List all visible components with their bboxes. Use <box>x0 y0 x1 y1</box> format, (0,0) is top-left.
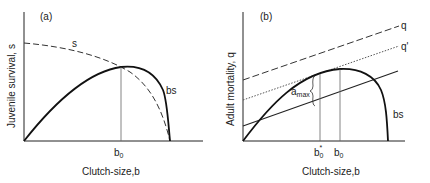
panel-b: (b) q q' bs amax b0* b0 Clutch-size,b Ad… <box>225 11 409 177</box>
figure: (a) s bs b0 Clutch-size,b Juvenile survi… <box>0 0 430 183</box>
panel-a-ylabel: Juvenile survival, s <box>6 44 17 128</box>
panel-a-tag: (a) <box>40 11 52 22</box>
panel-b-b0-star-tick: b0* <box>314 144 324 159</box>
panel-a-s-label: s <box>72 38 77 49</box>
panel-a-s-curve <box>24 43 170 141</box>
panel-b-bs-curve <box>243 69 388 141</box>
panel-b-q-prime-label: q' <box>401 41 409 52</box>
panel-a-bs-curve <box>24 67 170 141</box>
panel-b-amax-label: amax <box>291 86 310 98</box>
panel-a: (a) s bs b0 Clutch-size,b Juvenile survi… <box>6 11 203 177</box>
panel-b-tag: (b) <box>260 11 272 22</box>
panel-b-xlabel: Clutch-size,b <box>302 166 360 177</box>
panel-a-b0-tick: b0 <box>114 147 124 159</box>
panel-b-ylabel: Adult mortality, q <box>225 52 236 126</box>
panel-b-b0-tick: b0 <box>334 147 344 159</box>
panel-b-q-label: q <box>401 20 407 31</box>
panel-a-xlabel: Clutch-size,b <box>82 166 140 177</box>
panel-a-bs-label: bs <box>166 85 177 96</box>
panel-b-bs-label: bs <box>393 109 404 120</box>
